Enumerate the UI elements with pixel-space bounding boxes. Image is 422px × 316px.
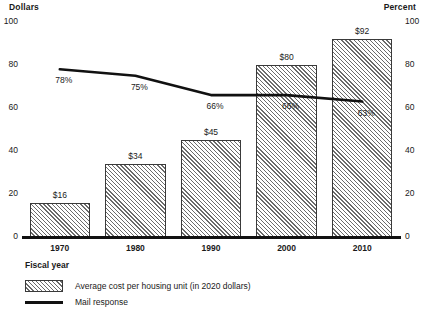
right-axis-tick-label: 60 [405,103,414,112]
x-axis-tick-label-1980: 1980 [126,243,145,253]
line-value-label-1970: 78% [55,75,72,85]
chart-container: Dollars Percent 020406080100 02040608010… [0,0,422,316]
line-value-label-1990: 66% [206,101,223,111]
left-axis-tick-label: 80 [9,60,18,69]
x-axis-tick-label-2000: 2000 [277,243,296,253]
line-value-label-2000: 66% [282,101,299,111]
left-axis-tick-label: 0 [13,232,18,241]
plot-area: 020406080100 020406080100 $16$34$45$80$9… [22,22,400,237]
line-value-label-2010: 63% [358,108,375,118]
right-axis-tick-label: 0 [405,232,410,241]
legend-item-average-cost: Average cost per housing unit (in 2020 d… [25,278,405,294]
left-axis-unit-label: Dollars [9,2,39,12]
mail-response-line [60,69,362,101]
left-axis-tick-label: 40 [9,146,18,155]
right-axis-tick-label: 80 [405,60,414,69]
line-value-label-1980: 75% [131,82,148,92]
left-axis-tick-label: 100 [4,17,18,26]
x-axis-tick-label-1970: 1970 [50,243,69,253]
right-axis-tick-label: 40 [405,146,414,155]
x-axis-tick-label-2010: 2010 [353,243,372,253]
left-axis-tick-label: 20 [9,189,18,198]
x-axis-title: Fiscal year [25,260,69,270]
x-axis-tick-label-1990: 1990 [202,243,221,253]
right-axis-tick-label: 100 [405,17,419,26]
chart-legend: Average cost per housing unit (in 2020 d… [25,278,405,310]
line-series [22,22,400,237]
x-axis-baseline [22,236,401,239]
line-swatch-icon [25,301,63,304]
legend-label-mail-response: Mail response [75,297,128,307]
legend-label-average-cost: Average cost per housing unit (in 2020 d… [75,281,251,291]
hatched-bar-swatch-icon [25,280,63,292]
right-axis-unit-label: Percent [384,2,416,12]
right-axis-tick-label: 20 [405,189,414,198]
left-axis-tick-label: 60 [9,103,18,112]
legend-item-mail-response: Mail response [25,294,405,310]
